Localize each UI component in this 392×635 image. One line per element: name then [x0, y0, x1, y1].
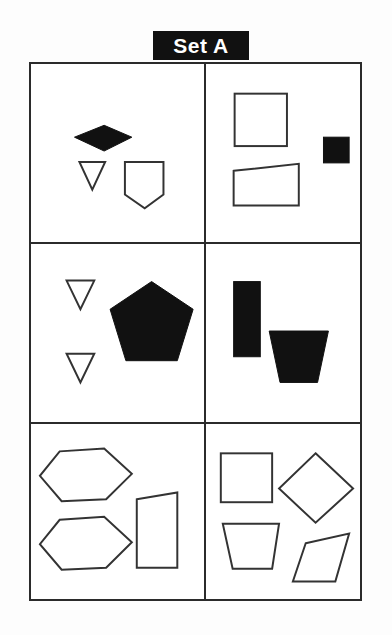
diamond-shape-filled [74, 125, 131, 151]
parallelogram-shape-outline [293, 533, 349, 581]
square-shape-outline [235, 94, 287, 146]
triangle-down-icon [79, 162, 105, 190]
triangle-down-upper-icon [67, 281, 95, 310]
cell-4-shapes [206, 244, 360, 422]
cell-3-shapes [31, 244, 204, 422]
quadrilateral-shape-outline [234, 164, 299, 206]
grid-cell-1 [31, 64, 206, 244]
set-title-label: Set A [173, 35, 228, 56]
grid-cell-2 [206, 64, 360, 244]
cell-6-shapes [206, 424, 360, 599]
cell-2-shapes [206, 64, 360, 242]
parallelogram-shape-outline [137, 492, 178, 567]
hexagon-lower-shape [40, 517, 132, 570]
triangle-down-lower-icon [67, 354, 95, 383]
cell-1-shapes [31, 64, 204, 242]
set-title-banner: Set A [153, 31, 249, 60]
diamond-shape-outline [279, 453, 353, 522]
trapezoid-shape-filled [269, 331, 328, 382]
shield-pentagon-shape [125, 162, 164, 208]
page-canvas: Set A [0, 0, 392, 635]
square-small-shape-filled [323, 137, 349, 163]
grid-cell-4 [206, 244, 360, 424]
square-shape-outline [221, 453, 272, 502]
trapezoid-shape-outline [223, 524, 279, 569]
shape-grid [29, 62, 362, 601]
grid-cell-6 [206, 424, 360, 599]
pentagon-shape-filled [110, 282, 193, 361]
hexagon-upper-shape [40, 448, 132, 501]
cell-5-shapes [31, 424, 204, 599]
grid-cell-3 [31, 244, 206, 424]
rectangle-vertical-shape-filled [234, 282, 261, 357]
grid-cell-5 [31, 424, 206, 599]
